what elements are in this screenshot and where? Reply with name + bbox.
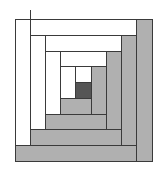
ring-4-bottom (16, 146, 137, 162)
ring-3-top (46, 36, 122, 52)
ring-1-right (92, 67, 107, 115)
log-cabin-block-diagram (0, 0, 162, 169)
ring-3-right (122, 36, 137, 146)
ring-2-right (107, 52, 122, 130)
ring-4-left (16, 20, 31, 146)
ring-1-left (61, 67, 76, 99)
quilt-pieces (16, 20, 153, 162)
ring-4-right (137, 20, 153, 162)
ring-3-bottom (31, 130, 122, 146)
ring-3-left (31, 36, 46, 130)
ring-2-top (61, 52, 107, 67)
ring-1-top (76, 67, 92, 83)
center-square (76, 83, 92, 99)
ring-1-bottom (61, 99, 92, 115)
ring-2-left (46, 52, 61, 115)
ring-4-top (31, 20, 137, 36)
ring-2-bottom (46, 115, 107, 130)
